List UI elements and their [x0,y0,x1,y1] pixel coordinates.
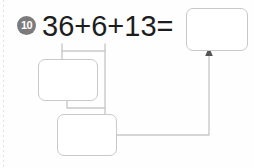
bracket-under-36-plus-6 [62,44,105,51]
math-worksheet-problem: 10 36+6+13= [0,0,254,168]
answer-box-sum[interactable] [57,114,117,156]
answer-box-result[interactable] [186,8,248,51]
sum-to-result-connector [117,55,209,135]
partial-to-sum-connector [67,101,105,108]
answer-box-partial[interactable] [38,59,98,101]
